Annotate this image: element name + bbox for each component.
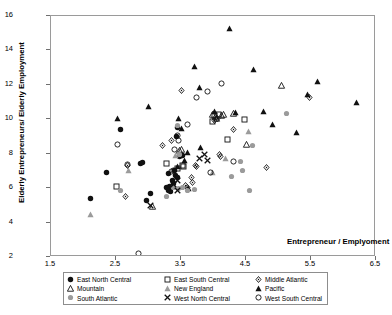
- open-square-icon: [164, 276, 172, 284]
- y-axis-tick-label: 14: [0, 45, 13, 53]
- legend-item-east-north-central[interactable]: East North Central: [67, 276, 164, 284]
- x-axis-tick-mark: [310, 256, 311, 260]
- data-point: [87, 211, 94, 218]
- data-point: [175, 137, 182, 144]
- data-point: [191, 186, 198, 193]
- x-axis-tick-label: 4.5: [225, 259, 265, 268]
- data-point: [163, 160, 170, 167]
- data-point: [218, 80, 225, 87]
- data-point: [228, 173, 235, 180]
- filled-circle-icon: [67, 276, 75, 284]
- data-point: [246, 187, 253, 194]
- x-axis-tick-mark: [245, 256, 246, 260]
- data-point: [114, 115, 121, 122]
- x-axis-tick-label: 1.5: [30, 259, 70, 268]
- data-point: [193, 163, 200, 170]
- data-point: [250, 66, 257, 73]
- data-point: [278, 82, 285, 89]
- data-point: [263, 164, 270, 171]
- data-point: [314, 78, 321, 85]
- legend-item-label: Mountain: [77, 285, 104, 292]
- legend-item-mountain[interactable]: Mountain: [67, 285, 164, 293]
- x-axis-tick-label: 6.5: [355, 259, 392, 268]
- data-point: [139, 159, 146, 166]
- legend-item-label: Middle Atlantic: [265, 276, 308, 283]
- data-point: [260, 108, 267, 115]
- y-axis-tick-label: 2: [0, 252, 13, 260]
- open-triangle-icon: [67, 285, 75, 293]
- data-point: [147, 190, 154, 197]
- legend-item-pacific[interactable]: Pacific: [255, 285, 324, 293]
- legend-item-south-atlantic[interactable]: South Atlantic: [67, 294, 164, 302]
- legend-item-label: West South Central: [265, 295, 322, 302]
- data-point: [220, 111, 227, 118]
- data-point: [184, 149, 191, 156]
- data-point: [196, 84, 203, 91]
- data-point: [304, 91, 311, 98]
- data-point: [230, 158, 237, 165]
- data-point: [224, 136, 231, 143]
- data-point: [193, 94, 200, 101]
- legend-box: East North CentralEast South CentralMidd…: [63, 272, 328, 305]
- data-point: [211, 108, 218, 115]
- legend-item-east-south-central[interactable]: East South Central: [164, 276, 255, 284]
- data-point: [293, 129, 300, 136]
- y-axis-tick-label: 6: [0, 183, 13, 191]
- data-point: [207, 169, 214, 176]
- data-point: [163, 193, 170, 200]
- filled-triangle-grey-icon: [164, 285, 172, 293]
- legend-item-label: East North Central: [77, 276, 131, 283]
- data-point: [241, 116, 248, 123]
- data-point-canvas: [51, 16, 374, 255]
- legend-item-label: New England: [174, 285, 213, 292]
- y-axis-tick-label: 4: [0, 218, 13, 226]
- data-point: [117, 187, 124, 194]
- data-point: [175, 115, 182, 122]
- data-point: [170, 181, 177, 188]
- data-point: [353, 99, 360, 106]
- filled-triangle-icon: [255, 285, 263, 293]
- open-circle-icon: [255, 294, 263, 302]
- data-point: [171, 146, 178, 153]
- x-axis-tick-mark: [115, 256, 116, 260]
- y-axis-tick-label: 10: [0, 114, 13, 122]
- y-axis-tick-label: 12: [0, 80, 13, 88]
- data-point: [237, 158, 244, 165]
- data-point: [245, 128, 252, 135]
- data-point: [125, 167, 132, 174]
- data-point: [168, 168, 175, 175]
- data-point: [283, 110, 290, 117]
- x-axis-tick-mark: [375, 256, 376, 260]
- data-point: [184, 121, 191, 128]
- data-point: [249, 142, 256, 149]
- scatter-chart-figure: Elderly Entrepreneurs/ Elderly Employmen…: [0, 0, 392, 315]
- data-point: [117, 126, 124, 133]
- legend-item-middle-atlantic[interactable]: Middle Atlantic: [255, 276, 324, 284]
- data-point: [147, 202, 154, 209]
- data-point: [174, 122, 181, 129]
- x-axis-tick-label: 2.5: [95, 259, 135, 268]
- cross-x-icon: [164, 294, 172, 302]
- data-point: [269, 121, 276, 128]
- legend-item-west-south-central[interactable]: West South Central: [255, 294, 324, 302]
- data-point: [232, 109, 239, 116]
- data-point: [191, 63, 198, 70]
- y-axis-tick-mark: [46, 256, 50, 257]
- legend-item-new-england[interactable]: New England: [164, 285, 255, 293]
- legend-grid: East North CentralEast South CentralMidd…: [67, 275, 324, 303]
- data-point: [222, 155, 229, 162]
- y-axis-title: Elderly Entrepreneurs/ Elderly Employmen…: [17, 28, 26, 218]
- data-point: [204, 157, 211, 164]
- legend-item-west-north-central[interactable]: West North Central: [164, 294, 255, 302]
- data-point: [114, 141, 121, 148]
- data-point: [87, 195, 94, 202]
- data-point: [135, 250, 142, 255]
- plot-area: Entrepreneur / Emplyoment: [50, 15, 375, 256]
- x-axis-tick-label: 5.5: [290, 259, 330, 268]
- data-point: [181, 157, 188, 164]
- legend-item-label: East South Central: [174, 276, 229, 283]
- data-point: [184, 187, 191, 194]
- data-point: [226, 25, 233, 32]
- data-point: [178, 87, 185, 94]
- legend-item-label: West North Central: [174, 295, 230, 302]
